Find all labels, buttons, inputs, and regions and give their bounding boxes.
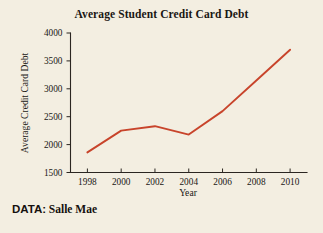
chart-figure: Average Student Credit Card Debt 1500200… xyxy=(0,0,323,233)
x-tick-label-2006: 2006 xyxy=(213,177,232,187)
y-axis-ticks xyxy=(67,33,71,173)
data-source-value: Salle Mae xyxy=(49,203,97,215)
line-chart-plot: 150020002500300035004000 199820002002200… xyxy=(0,0,323,233)
y-tick-label-3000: 3000 xyxy=(44,84,63,94)
x-tick-label-1998: 1998 xyxy=(78,177,97,187)
x-tick-label-2004: 2004 xyxy=(179,177,198,187)
y-tick-label-2000: 2000 xyxy=(44,140,63,150)
y-tick-label-3500: 3500 xyxy=(44,56,63,66)
y-axis-title: Average Credit Card Debt xyxy=(19,53,30,154)
x-axis-title: Year xyxy=(179,187,197,198)
x-axis-ticks xyxy=(87,169,290,173)
x-axis-tick-labels: 1998200020022004200620082010 xyxy=(78,177,300,187)
data-source-caption: DATA: Salle Mae xyxy=(12,203,97,215)
x-tick-label-2008: 2008 xyxy=(247,177,266,187)
x-tick-label-2010: 2010 xyxy=(281,177,300,187)
y-tick-label-1500: 1500 xyxy=(44,168,63,178)
data-source-label: DATA: xyxy=(12,203,46,215)
x-axis: 1998200020022004200620082010 xyxy=(71,169,308,187)
y-tick-label-4000: 4000 xyxy=(44,28,63,38)
debt-series-line xyxy=(87,50,290,153)
y-tick-label-2500: 2500 xyxy=(44,112,63,122)
y-axis: 150020002500300035004000 xyxy=(44,28,71,178)
x-tick-label-2000: 2000 xyxy=(112,177,131,187)
x-tick-label-2002: 2002 xyxy=(146,177,165,187)
y-axis-tick-labels: 150020002500300035004000 xyxy=(44,28,63,178)
